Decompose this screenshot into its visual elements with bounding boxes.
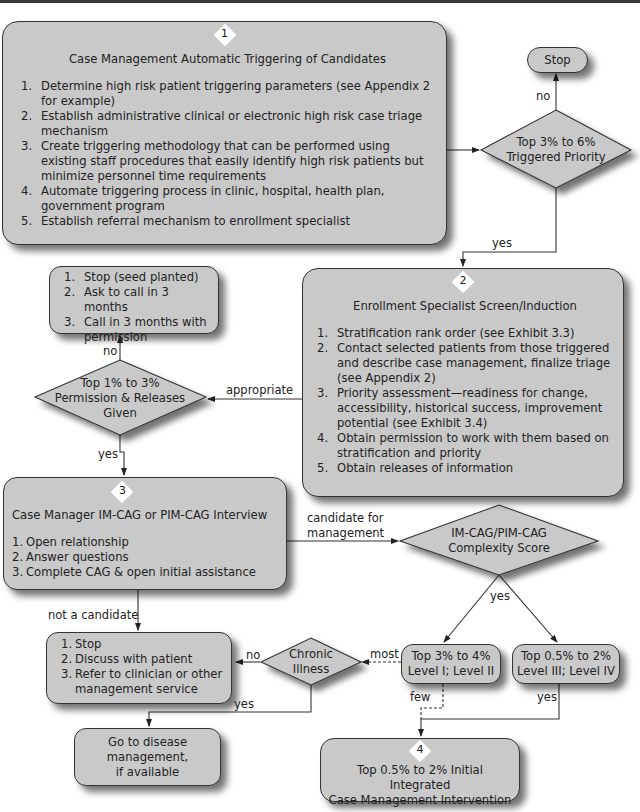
stop-refer-box: 1.Stop 2.Discuss with patient 3.Refer to… xyxy=(46,632,232,704)
edge-label-yes: yes xyxy=(98,447,118,461)
level-1-2-box: Top 3% to 4%Level I; Level II xyxy=(401,644,501,684)
step3-interview-box: 3 Case Manager IM-CAG or PIM-CAG Intervi… xyxy=(3,477,287,590)
edge-label-not-candidate: not a candidate xyxy=(48,608,138,622)
seed-list: 1.Stop (seed planted) 2.Ask to call in 3… xyxy=(64,270,212,345)
stop-list: 1.Stop 2.Discuss with patient 3.Refer to… xyxy=(61,637,225,697)
decision-complexity: IM-CAG/PIM-CAGComplexity Score xyxy=(429,523,569,559)
edge-label-yes: yes xyxy=(490,589,510,603)
list-item: 3.Complete CAG & open initial assistance xyxy=(12,565,278,580)
edge-label-no: no xyxy=(103,344,117,358)
list-item: 1.Stop (seed planted) xyxy=(64,270,212,285)
edge-label-most: most xyxy=(370,647,399,661)
edge-label-no: no xyxy=(246,648,260,662)
list-item: 3.Create triggering methodology that can… xyxy=(21,139,434,184)
step-number: 1 xyxy=(3,26,446,41)
list-item: 2.Establish administrative clinical or e… xyxy=(21,109,434,139)
list-item: 4.Automate triggering process in clinic,… xyxy=(21,184,434,214)
list-item: 3.Call in 3 months with permission xyxy=(64,315,212,345)
list-item: 1.Determine high risk patient triggering… xyxy=(21,79,434,109)
list-item: 2.Answer questions xyxy=(12,550,278,565)
step4-intervention-box: 4 Top 0.5% to 2% Initial IntegratedCase … xyxy=(320,738,520,802)
list-item: 3.Priority assessment—readiness for chan… xyxy=(317,386,613,431)
step-title: Case Manager IM-CAG or PIM-CAG Interview xyxy=(12,508,278,523)
edge-label-yes: yes xyxy=(234,697,254,711)
list-item: 4.Obtain permission to work with them ba… xyxy=(317,431,613,461)
list-item: 5.Obtain releases of information xyxy=(317,461,613,476)
list-item: 5.Establish referral mechanism to enroll… xyxy=(21,214,434,229)
list-item: 2.Discuss with patient xyxy=(61,652,225,667)
step-number: 4 xyxy=(321,742,519,757)
edge-label-yes: yes xyxy=(492,236,512,250)
list-item: 2.Contact selected patients from those t… xyxy=(317,341,613,386)
decision-chronic: ChronicIllness xyxy=(271,646,351,678)
list-item: 1.Stratification rank order (see Exhibit… xyxy=(317,326,613,341)
stop-label: Stop xyxy=(544,53,570,68)
stop-terminal: Stop xyxy=(527,47,588,73)
step-list: 1.Open relationship 2.Answer questions 3… xyxy=(12,535,278,580)
step1-triggering-box: 1 Case Management Automatic Triggering o… xyxy=(2,21,447,245)
list-item: 2.Ask to call in 3 months xyxy=(64,285,212,315)
step-number: 3 xyxy=(0,483,263,498)
step2-enrollment-box: 2 Enrollment Specialist Screen/Induction… xyxy=(302,268,624,497)
seed-planted-box: 1.Stop (seed planted) 2.Ask to call in 3… xyxy=(49,266,219,334)
edge-label-appropriate: appropriate xyxy=(226,383,293,397)
step-number: 2 xyxy=(303,273,623,288)
edge-label-no: no xyxy=(536,89,550,103)
edge-label-candidate: candidate formanagement xyxy=(307,511,384,541)
edge-label-yes: yes xyxy=(537,690,557,704)
list-item: 1.Open relationship xyxy=(12,535,278,550)
list-item: 1.Stop xyxy=(61,637,225,652)
decision-permission: Top 1% to 3%Permission & ReleasesGiven xyxy=(45,374,195,422)
step-title: Case Management Automatic Triggering of … xyxy=(21,52,434,67)
step-title: Enrollment Specialist Screen/Induction xyxy=(317,299,613,314)
step-list: 1.Stratification rank order (see Exhibit… xyxy=(317,326,613,476)
edge-label-few: few xyxy=(410,690,431,704)
decision-triggered: Top 3% to 6%Triggered Priority xyxy=(491,132,621,168)
step-list: 1.Determine high risk patient triggering… xyxy=(21,79,434,229)
level-3-4-box: Top 0.5% to 2%Level III; Level IV xyxy=(512,644,620,684)
list-item: 3.Refer to clinician or other management… xyxy=(61,667,225,697)
disease-management-box: Go to diseasemanagement,if available xyxy=(74,728,221,786)
